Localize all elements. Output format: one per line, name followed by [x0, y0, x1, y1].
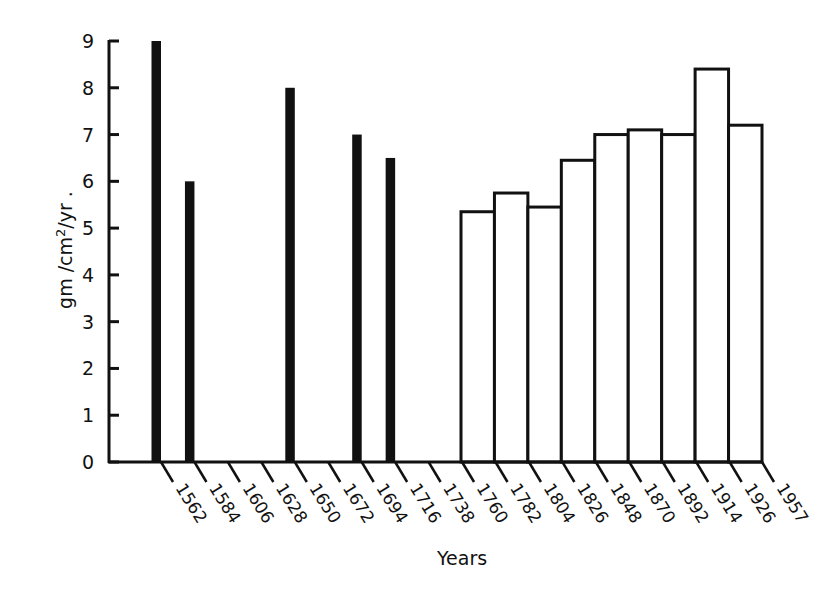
x-tick [328, 462, 340, 482]
solid-bar [152, 41, 162, 462]
y-tick-label: 7 [82, 124, 94, 146]
y-tick-label: 3 [82, 311, 94, 333]
x-tick [496, 462, 508, 482]
x-tick-label: 1892 [673, 480, 713, 527]
solid-bar [185, 181, 195, 462]
open-bar [695, 69, 728, 462]
solid-bar [285, 88, 295, 462]
y-axis-title-sup: 2 [53, 229, 68, 237]
open-bar [494, 193, 527, 462]
x-tick [362, 462, 374, 482]
x-tick [596, 462, 608, 482]
x-tick [429, 462, 441, 482]
y-tick-label: 2 [82, 357, 94, 379]
x-tick-label: 1694 [372, 480, 412, 527]
x-tick [194, 462, 206, 482]
y-tick-label: 4 [82, 264, 94, 286]
x-tick-label: 1848 [606, 480, 646, 527]
x-tick-label: 1760 [473, 480, 513, 527]
open-bar [561, 160, 594, 462]
x-tick-label: 1562 [172, 480, 212, 527]
open-bar [528, 207, 561, 462]
y-tick-label: 1 [82, 404, 94, 426]
x-tick-label: 1606 [239, 480, 279, 527]
x-tick [629, 462, 641, 482]
y-tick-label: 5 [82, 217, 94, 239]
bars-layer [152, 41, 763, 462]
open-bar [595, 135, 628, 462]
x-tick [730, 462, 742, 482]
y-tick-label: 8 [82, 77, 94, 99]
open-bar [461, 212, 494, 462]
x-tick-label: 1628 [272, 480, 312, 527]
x-tick-label: 1804 [540, 480, 580, 527]
x-tick-label: 1870 [640, 480, 680, 527]
y-axis-title-rest: /yr . [54, 191, 76, 229]
x-tick [395, 462, 407, 482]
x-tick-label: 1957 [773, 480, 813, 527]
x-tick [762, 462, 774, 482]
chart: 0123456789156215841606162816501672169417… [0, 0, 839, 595]
x-tick [529, 462, 541, 482]
x-tick-label: 1926 [740, 480, 780, 527]
open-bar [729, 125, 762, 462]
x-tick-label: 1672 [339, 480, 379, 527]
solid-bar [352, 135, 362, 462]
x-tick [261, 462, 273, 482]
x-tick-label: 1826 [573, 480, 613, 527]
x-tick [228, 462, 240, 482]
y-tick-label: 9 [82, 30, 94, 52]
x-tick-label: 1716 [406, 480, 446, 527]
x-tick-label: 1782 [506, 480, 546, 527]
y-tick-label: 0 [82, 451, 94, 473]
y-tick-label: 6 [82, 170, 94, 192]
x-tick [462, 462, 474, 482]
x-tick [663, 462, 675, 482]
solid-bar [386, 158, 396, 462]
x-tick-label: 1584 [205, 480, 245, 527]
x-tick-label: 1738 [439, 480, 479, 527]
x-tick [696, 462, 708, 482]
x-tick [295, 462, 307, 482]
x-tick-label: 1650 [305, 480, 345, 527]
y-axis-title-base: gm /cm [54, 237, 76, 309]
open-bar [628, 130, 661, 462]
y-axis-title: gm /cm2/yr . [53, 191, 77, 309]
x-axis-title: Years [436, 547, 487, 569]
x-tick [562, 462, 574, 482]
x-tick [161, 462, 173, 482]
x-tick-label: 1914 [707, 480, 747, 527]
open-bar [662, 135, 695, 462]
